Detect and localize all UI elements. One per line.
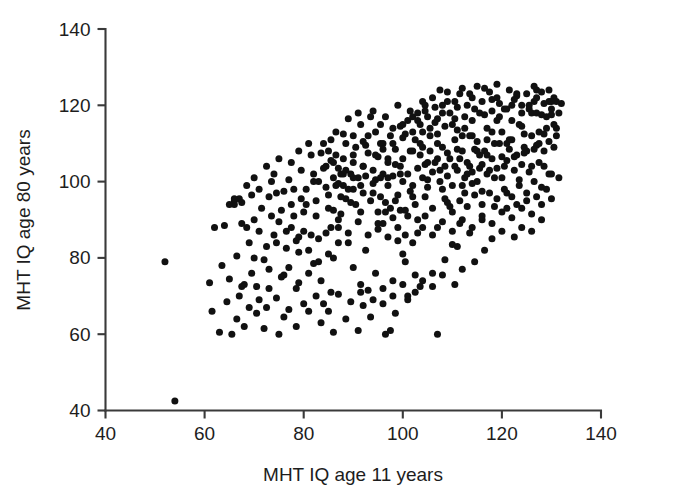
data-point bbox=[243, 182, 250, 189]
data-point bbox=[459, 182, 466, 189]
data-point bbox=[300, 228, 307, 235]
data-point bbox=[422, 193, 429, 200]
data-point bbox=[444, 149, 451, 156]
data-point bbox=[231, 195, 238, 202]
data-point bbox=[223, 298, 230, 305]
data-point bbox=[523, 197, 530, 204]
data-point bbox=[280, 188, 287, 195]
data-point bbox=[387, 327, 394, 334]
data-point bbox=[434, 155, 441, 162]
data-point bbox=[256, 296, 263, 303]
scatter-data-points bbox=[161, 81, 564, 405]
data-point bbox=[461, 190, 468, 197]
data-point bbox=[456, 197, 463, 204]
data-point bbox=[394, 224, 401, 231]
data-point bbox=[481, 111, 488, 118]
data-point bbox=[389, 140, 396, 147]
x-tick-label-140: 140 bbox=[585, 423, 617, 444]
data-point bbox=[335, 165, 342, 172]
data-point bbox=[404, 170, 411, 177]
x-tick-label-120: 120 bbox=[486, 423, 518, 444]
data-point bbox=[469, 180, 476, 187]
data-point bbox=[365, 149, 372, 156]
data-point bbox=[362, 247, 369, 254]
data-point bbox=[464, 203, 471, 210]
data-point bbox=[303, 186, 310, 193]
data-point bbox=[449, 209, 456, 216]
data-point bbox=[459, 132, 466, 139]
data-point bbox=[429, 205, 436, 212]
data-point bbox=[454, 127, 461, 134]
data-point bbox=[429, 169, 436, 176]
data-point bbox=[285, 306, 292, 313]
data-point bbox=[516, 182, 523, 189]
data-point bbox=[491, 140, 498, 147]
data-point bbox=[461, 113, 468, 120]
data-point bbox=[399, 155, 406, 162]
data-point bbox=[335, 180, 342, 187]
data-point bbox=[469, 117, 476, 124]
data-point bbox=[511, 96, 518, 103]
data-point bbox=[553, 98, 560, 105]
data-point bbox=[362, 172, 369, 179]
data-point bbox=[325, 251, 332, 258]
data-point bbox=[491, 174, 498, 181]
data-point bbox=[503, 106, 510, 113]
data-point bbox=[518, 123, 525, 130]
data-point bbox=[523, 190, 530, 197]
data-point bbox=[446, 109, 453, 116]
data-point bbox=[479, 98, 486, 105]
data-point bbox=[233, 252, 240, 259]
data-point bbox=[491, 203, 498, 210]
y-axis-title: MHT IQ age 80 years bbox=[13, 129, 34, 310]
data-point bbox=[439, 218, 446, 225]
data-point bbox=[389, 293, 396, 300]
data-point bbox=[303, 201, 310, 208]
data-point bbox=[367, 113, 374, 120]
data-point bbox=[280, 314, 287, 321]
data-point bbox=[479, 201, 486, 208]
data-point bbox=[345, 230, 352, 237]
data-point bbox=[288, 201, 295, 208]
data-point bbox=[451, 136, 458, 143]
data-point bbox=[521, 130, 528, 137]
data-point bbox=[305, 247, 312, 254]
data-point bbox=[533, 193, 540, 200]
data-point bbox=[263, 243, 270, 250]
data-point bbox=[310, 178, 317, 185]
data-point bbox=[501, 186, 508, 193]
data-point bbox=[434, 331, 441, 338]
data-point bbox=[261, 325, 268, 332]
data-point bbox=[295, 148, 302, 155]
data-point bbox=[256, 186, 263, 193]
data-point bbox=[407, 188, 414, 195]
data-point bbox=[439, 186, 446, 193]
data-point bbox=[419, 174, 426, 181]
data-point bbox=[335, 291, 342, 298]
data-point bbox=[484, 136, 491, 143]
data-point bbox=[236, 293, 243, 300]
data-point bbox=[526, 169, 533, 176]
data-point bbox=[218, 262, 225, 269]
data-point bbox=[290, 186, 297, 193]
data-point bbox=[486, 190, 493, 197]
data-point bbox=[451, 163, 458, 170]
data-point bbox=[488, 235, 495, 242]
data-point bbox=[360, 138, 367, 145]
data-point bbox=[407, 148, 414, 155]
data-point bbox=[315, 258, 322, 265]
data-point bbox=[318, 277, 325, 284]
data-point bbox=[335, 239, 342, 246]
data-point bbox=[226, 201, 233, 208]
data-point bbox=[484, 125, 491, 132]
data-point bbox=[555, 174, 562, 181]
data-point bbox=[451, 281, 458, 288]
data-point bbox=[295, 249, 302, 256]
data-point bbox=[498, 174, 505, 181]
data-point bbox=[479, 212, 486, 219]
data-point bbox=[441, 256, 448, 263]
data-point bbox=[454, 243, 461, 250]
y-axis-ticks bbox=[98, 29, 106, 411]
data-point bbox=[518, 161, 525, 168]
data-point bbox=[342, 315, 349, 322]
